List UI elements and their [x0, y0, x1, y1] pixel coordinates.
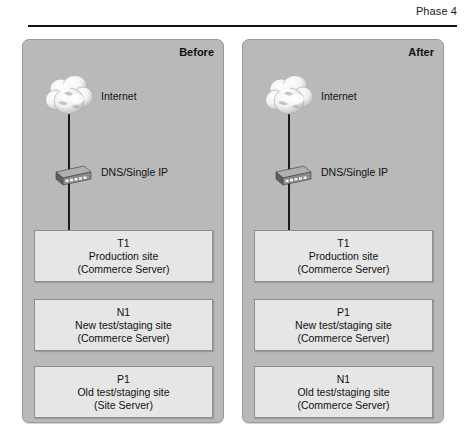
server-role: Old test/staging site	[77, 386, 169, 399]
panel-title-before: Before	[179, 46, 214, 58]
server-box: T1 Production site (Commerce Server)	[34, 230, 213, 282]
phase-label: Phase 4	[416, 5, 457, 17]
server-role: New test/staging site	[75, 319, 172, 332]
cloud-icon	[44, 73, 94, 119]
server-product: (Commerce Server)	[77, 263, 169, 276]
panel-title-after: After	[408, 46, 434, 58]
server-product: (Commerce Server)	[77, 332, 169, 345]
server-name: T1	[337, 237, 349, 250]
header-divider	[28, 25, 457, 27]
dns-label: DNS/Single IP	[101, 166, 168, 178]
internet-label: Internet	[321, 90, 357, 102]
server-name: N1	[337, 373, 350, 386]
server-product: (Site Server)	[94, 399, 153, 412]
server-name: P1	[117, 373, 130, 386]
server-box: T1 Production site (Commerce Server)	[254, 230, 433, 282]
server-box: P1 Old test/staging site (Site Server)	[34, 366, 213, 418]
server-role: New test/staging site	[295, 319, 392, 332]
internet-label: Internet	[101, 90, 137, 102]
server-box: N1 Old test/staging site (Commerce Serve…	[254, 366, 433, 418]
panel-after: After	[242, 39, 444, 423]
dns-label: DNS/Single IP	[321, 166, 388, 178]
server-name: T1	[117, 237, 129, 250]
server-box: N1 New test/staging site (Commerce Serve…	[34, 299, 213, 351]
server-role: Old test/staging site	[297, 386, 389, 399]
server-role: Production site	[309, 250, 378, 263]
server-product: (Commerce Server)	[297, 399, 389, 412]
network-switch-icon	[46, 162, 92, 190]
server-name: N1	[117, 306, 130, 319]
cloud-icon	[264, 73, 314, 119]
server-box: P1 New test/staging site (Commerce Serve…	[254, 299, 433, 351]
panel-before: Before	[22, 39, 224, 423]
server-product: (Commerce Server)	[297, 332, 389, 345]
server-product: (Commerce Server)	[297, 263, 389, 276]
diagram-header: Phase 4	[0, 0, 467, 34]
server-name: P1	[337, 306, 350, 319]
network-switch-icon	[266, 162, 312, 190]
server-role: Production site	[89, 250, 158, 263]
